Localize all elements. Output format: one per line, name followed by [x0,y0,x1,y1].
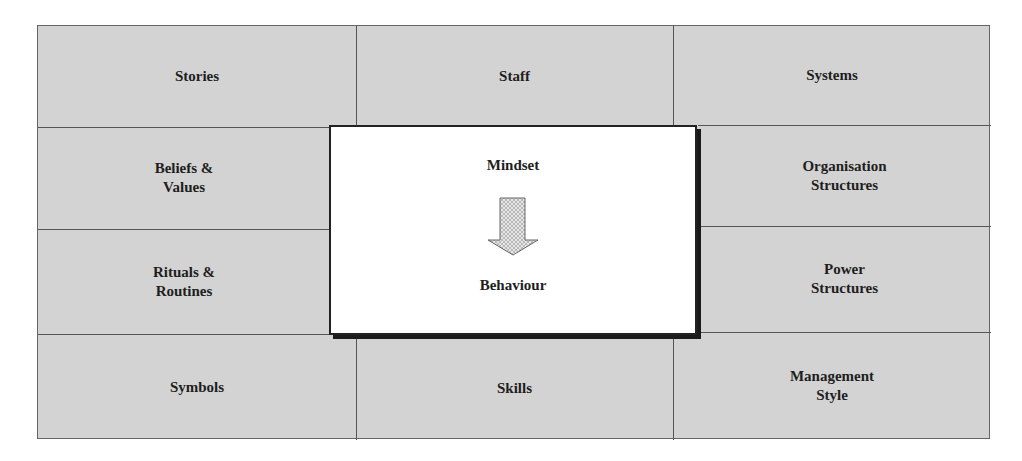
cell-staff-label: Staff [499,67,530,86]
cell-power-structures-line2: Structures [811,279,878,298]
cell-systems: Systems [673,26,991,125]
cell-organisation-structures-line1: Organisation [802,157,886,176]
cell-stories-label: Stories [175,67,219,86]
cell-staff: Staff [356,26,673,126]
mindset-label: Mindset [331,157,695,174]
cell-management-style-line1: Management [790,367,874,386]
behaviour-label: Behaviour [331,277,695,294]
cell-symbols: Symbols [38,334,356,440]
cell-systems-label: Systems [806,66,858,85]
center-box: Mindset Behaviour [329,125,697,335]
cell-management-style-line2: Style [816,386,848,405]
cell-beliefs-values: Beliefs & Values [38,127,330,229]
cell-beliefs-values-line2: Values [163,178,205,197]
cell-rituals-routines-line1: Rituals & [153,263,215,282]
cell-power-structures: Power Structures [698,226,991,332]
cell-management-style: Management Style [673,332,991,440]
cell-stories: Stories [38,26,356,127]
cell-symbols-label: Symbols [170,378,224,397]
cell-power-structures-line1: Power [824,260,865,279]
cell-organisation-structures: Organisation Structures [698,125,991,226]
cell-skills-label: Skills [497,379,532,398]
down-arrow-icon [487,197,539,257]
cell-beliefs-values-line1: Beliefs & [155,159,214,178]
cell-rituals-routines: Rituals & Routines [38,229,330,334]
cell-organisation-structures-line2: Structures [811,176,878,195]
cell-rituals-routines-line2: Routines [156,282,213,301]
cell-skills: Skills [356,337,673,440]
